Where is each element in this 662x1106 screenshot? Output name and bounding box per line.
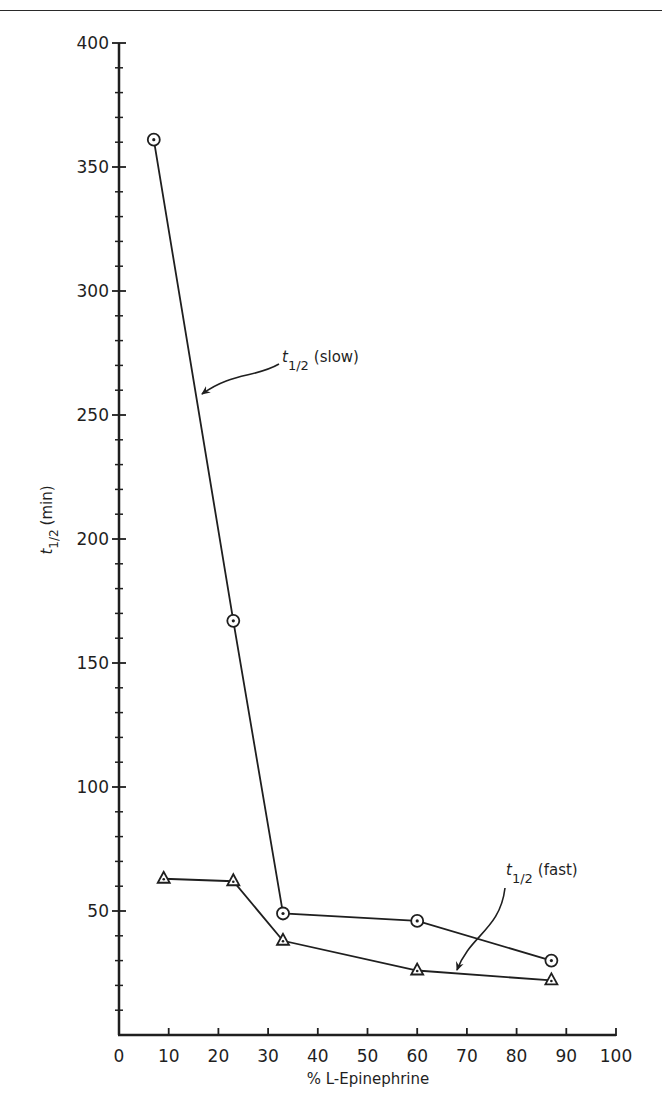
- y-label-rest: (min): [38, 485, 56, 525]
- y-tick-label: 400: [77, 33, 109, 53]
- annotation-fast-arrow-icon: [457, 888, 505, 970]
- y-label-sub: 1/2: [47, 529, 61, 548]
- x-tick-label: 70: [456, 1046, 478, 1066]
- y-tick-label: 250: [77, 405, 109, 425]
- axes: 5010015020025030035040001020304050607080…: [77, 33, 633, 1066]
- annotation-slow: t1/2(slow): [202, 348, 359, 394]
- y-tick-label: 350: [77, 157, 109, 177]
- triangle-marker: [158, 872, 170, 883]
- x-tick-label: 20: [208, 1046, 230, 1066]
- annotation-slow-arrow-icon: [202, 364, 279, 394]
- annotations: t1/2(slow)t1/2(fast): [202, 348, 578, 970]
- circle-marker-dot: [232, 619, 235, 622]
- annotation-fast: t1/2(fast): [457, 861, 578, 970]
- annotation-fast-label: t1/2(fast): [506, 861, 578, 886]
- y-tick-label: 50: [87, 901, 109, 921]
- x-axis-label: % L-Epinephrine: [307, 1070, 430, 1088]
- circle-marker-dot: [152, 138, 155, 141]
- y-tick-label: 300: [77, 281, 109, 301]
- x-tick-label: 10: [158, 1046, 180, 1066]
- x-tick-label: 40: [307, 1046, 329, 1066]
- triangle-marker-dot: [232, 880, 235, 883]
- circle-marker-dot: [416, 919, 419, 922]
- circle-marker-dot: [281, 912, 284, 915]
- series-fast: [158, 872, 558, 985]
- series-layer: [148, 134, 558, 985]
- triangle-marker-dot: [162, 878, 165, 881]
- x-tick-label: 100: [600, 1046, 632, 1066]
- y-axis-label: t1/2(min): [38, 485, 61, 554]
- y-tick-label: 200: [77, 529, 109, 549]
- x-tick-label: 80: [506, 1046, 528, 1066]
- triangle-marker-dot: [550, 980, 553, 983]
- series-line: [154, 140, 552, 961]
- y-tick-label: 150: [77, 653, 109, 673]
- x-tick-label: 90: [555, 1046, 577, 1066]
- svg-text:t1/2(min): t1/2(min): [38, 485, 61, 554]
- y-tick-label: 100: [77, 777, 109, 797]
- triangle-marker: [227, 874, 239, 885]
- triangle-marker: [545, 973, 557, 984]
- x-tick-label: 30: [257, 1046, 279, 1066]
- x-tick-label: 60: [406, 1046, 428, 1066]
- annotation-slow-label: t1/2(slow): [282, 348, 359, 373]
- triangle-marker-dot: [416, 970, 419, 973]
- x-tick-label: 50: [357, 1046, 379, 1066]
- series-slow: [148, 134, 558, 967]
- circle-marker-dot: [550, 959, 553, 962]
- line-chart: 5010015020025030035040001020304050607080…: [0, 0, 662, 1106]
- series-line: [164, 879, 552, 981]
- x-tick-label: 0: [114, 1046, 125, 1066]
- triangle-marker-dot: [282, 940, 285, 943]
